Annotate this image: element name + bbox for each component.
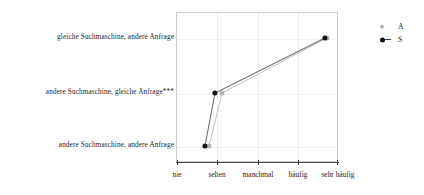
x-axis-tick <box>258 160 259 165</box>
y-axis-label-1-text: andere Suchmaschine, gleiche Anfrage <box>46 88 163 96</box>
legend-item-a: A <box>378 20 424 33</box>
legend-label-s: S <box>398 35 402 44</box>
x-axis <box>176 162 339 164</box>
y-axis-label-1-stars: *** <box>163 88 174 96</box>
data-point-a <box>220 91 225 96</box>
gridline-horizontal <box>177 39 337 40</box>
legend-marker-a-icon <box>378 20 395 33</box>
x-axis-label-sehr-haeufig: sehr häufig <box>321 170 354 179</box>
y-axis-label-0-text: gleiche Suchmaschine, andere Anfrage <box>57 33 174 41</box>
gridline-vertical <box>298 13 299 161</box>
y-axis-label-1: andere Suchmaschine, gleiche Anfrage*** <box>46 89 174 96</box>
x-axis-label-selten: selten <box>208 170 225 179</box>
x-axis-label-manchmal: manchmal <box>243 170 274 179</box>
gridline-horizontal <box>177 147 337 148</box>
x-axis-label-haeufig: häufig <box>289 170 308 179</box>
gridline-vertical <box>258 13 259 161</box>
y-axis-label-2-text: andere Suchmaschine, andere Anfrage <box>59 141 174 149</box>
chart-figure: gleiche Suchmaschine, andere Anfrage and… <box>0 0 424 195</box>
x-axis-tick <box>298 160 299 165</box>
legend-label-a: A <box>398 22 403 31</box>
gridline-horizontal <box>177 94 337 95</box>
plot-area <box>176 12 338 162</box>
x-axis-tick <box>217 160 218 165</box>
x-axis-label-nie: nie <box>172 170 181 179</box>
legend-item-s: S <box>378 33 424 46</box>
y-axis-labels: gleiche Suchmaschine, andere Anfrage and… <box>0 0 174 195</box>
y-axis-label-0: gleiche Suchmaschine, andere Anfrage <box>57 34 174 41</box>
gridline-vertical <box>217 13 218 161</box>
y-axis-label-2: andere Suchmaschine, andere Anfrage <box>59 142 174 149</box>
legend-marker-s-icon <box>378 33 395 46</box>
x-axis-tick <box>337 160 338 165</box>
x-axis-tick <box>177 160 178 165</box>
legend: A S <box>378 20 424 46</box>
